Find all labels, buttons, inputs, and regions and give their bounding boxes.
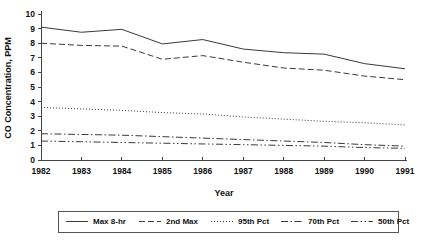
- x-tick-label: 1983: [72, 166, 91, 176]
- chart-legend: Max 8-hr2nd Max95th Pct70th Pct50th Pct: [58, 211, 409, 232]
- y-tick-label: 0: [30, 155, 35, 165]
- x-tick-label: 1984: [112, 166, 131, 176]
- legend-label-4: 70th Pct: [308, 217, 339, 226]
- legend-label-5: 50th Pct: [378, 217, 409, 226]
- x-tick-label: 1982: [32, 166, 51, 176]
- x-tick-label: 1987: [234, 166, 253, 176]
- x-tick-label: 1990: [355, 166, 374, 176]
- y-tick-label: 2: [30, 126, 35, 136]
- co-concentration-line-chart: CO Concentration, PPM 012345678910 19821…: [0, 0, 421, 241]
- x-tick-label: 1985: [153, 166, 172, 176]
- chart-background: [0, 0, 421, 241]
- x-tick-label: 1991: [396, 166, 415, 176]
- y-tick-label: 6: [30, 67, 35, 77]
- y-tick-label: 1: [30, 140, 35, 150]
- y-axis-title: CO Concentration, PPM: [3, 37, 13, 139]
- y-tick-label: 7: [30, 53, 35, 63]
- y-tick-label: 5: [30, 82, 35, 92]
- y-tick-label: 3: [30, 111, 35, 121]
- x-tick-label: 1989: [315, 166, 334, 176]
- x-tick-label: 1986: [193, 166, 212, 176]
- x-tick-label: 1988: [274, 166, 293, 176]
- chart-canvas: CO Concentration, PPM 012345678910 19821…: [0, 0, 421, 241]
- legend-label-1: Max 8-hr: [93, 217, 126, 226]
- y-tick-label: 9: [30, 24, 35, 34]
- x-axis-title: Year: [214, 188, 234, 198]
- legend-label-2: 2nd Max: [166, 217, 199, 226]
- y-tick-label: 10: [26, 9, 36, 19]
- y-tick-label: 8: [30, 38, 35, 48]
- legend-label-3: 95th Pct: [238, 217, 269, 226]
- y-tick-label: 4: [30, 97, 35, 107]
